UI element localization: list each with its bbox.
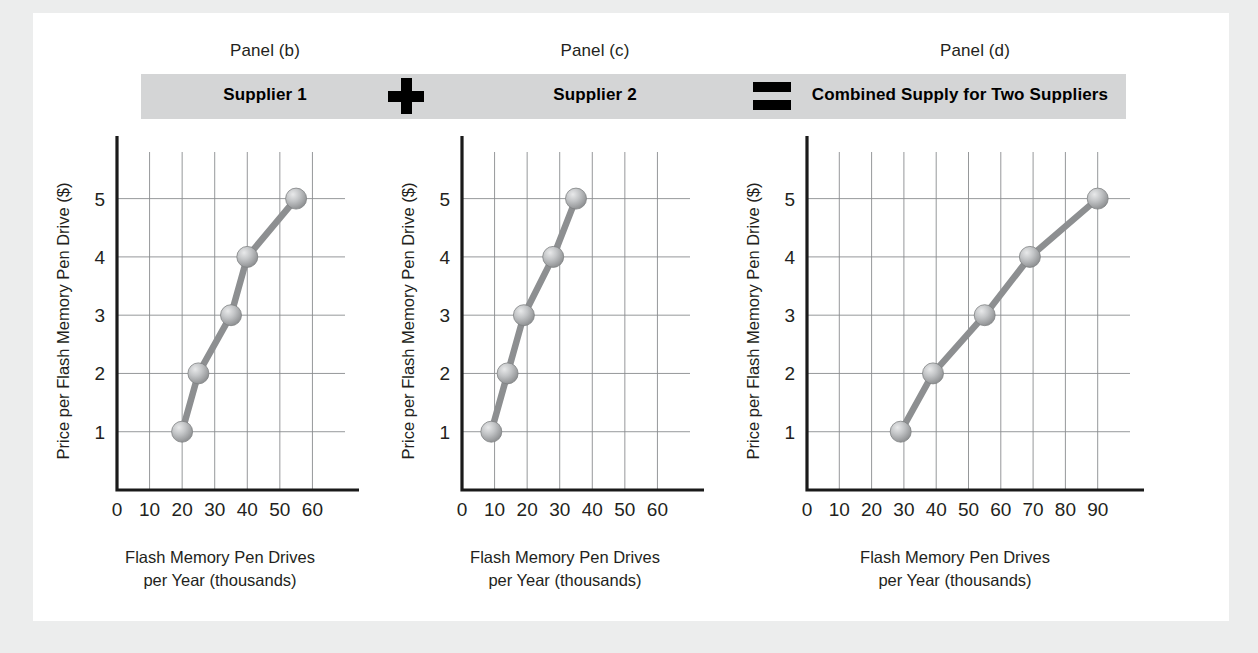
y-tick-label: 2 — [439, 363, 450, 384]
figure-root: Panel (b) Panel (c) Panel (d) Supplier 1… — [0, 0, 1258, 653]
chart-panel-c: 010203040506012345Price per Flash Memory… — [400, 130, 730, 540]
y-tick-label: 5 — [439, 189, 450, 210]
y-tick-label: 4 — [439, 247, 450, 268]
x-tick-label: 70 — [1023, 499, 1044, 520]
x-tick-label: 30 — [204, 499, 225, 520]
grid-lines — [807, 152, 1130, 490]
y-tick-label: 4 — [784, 247, 795, 268]
data-point-marker — [497, 363, 518, 384]
data-point-marker — [286, 188, 307, 209]
data-point-marker — [923, 363, 944, 384]
data-point-marker — [188, 363, 209, 384]
band-label-combined-supply: Combined Supply for Two Suppliers — [800, 85, 1120, 105]
y-axis-title: Price per Flash Memory Pen Drive ($) — [745, 183, 762, 460]
supply-curve-supplier-2: 010203040506012345Price per Flash Memory… — [400, 130, 730, 540]
y-tick-label: 1 — [94, 422, 105, 443]
y-tick-labels: 12345 — [784, 189, 795, 443]
chart-panel-d: 010203040506070809012345Price per Flash … — [745, 130, 1165, 540]
x-tick-labels: 0102030405060708090 — [802, 499, 1109, 520]
x-tick-label: 60 — [990, 499, 1011, 520]
data-point-marker — [890, 421, 911, 442]
x-tick-label: 50 — [958, 499, 979, 520]
data-point-marker — [237, 246, 258, 267]
x-axis-caption-d: Flash Memory Pen Drives per Year (thousa… — [745, 546, 1165, 592]
data-point-marker — [172, 421, 193, 442]
y-axis-title: Price per Flash Memory Pen Drive ($) — [55, 183, 72, 460]
data-point-marker — [221, 305, 242, 326]
panel-caption-d: Panel (d) — [840, 41, 1110, 61]
y-tick-label: 3 — [94, 305, 105, 326]
x-axis-caption-line2: per Year (thousands) — [55, 569, 385, 592]
x-tick-label: 10 — [139, 499, 160, 520]
x-tick-label: 60 — [302, 499, 323, 520]
x-axis-caption-line2: per Year (thousands) — [745, 569, 1165, 592]
y-tick-label: 2 — [94, 363, 105, 384]
x-axis-caption-line1: Flash Memory Pen Drives — [55, 546, 385, 569]
y-tick-label: 5 — [784, 189, 795, 210]
y-tick-label: 4 — [94, 247, 105, 268]
x-tick-labels: 0102030405060 — [457, 499, 668, 520]
y-tick-label: 3 — [784, 305, 795, 326]
supply-curve-combined: 010203040506070809012345Price per Flash … — [745, 130, 1165, 540]
y-tick-labels: 12345 — [94, 189, 105, 443]
y-tick-labels: 12345 — [439, 189, 450, 443]
x-tick-label: 0 — [112, 499, 123, 520]
x-tick-label: 50 — [614, 499, 635, 520]
y-tick-label: 2 — [784, 363, 795, 384]
x-tick-label: 20 — [861, 499, 882, 520]
y-tick-label: 5 — [94, 189, 105, 210]
x-tick-label: 10 — [484, 499, 505, 520]
band-label-supplier-1: Supplier 1 — [150, 85, 380, 105]
x-tick-label: 60 — [647, 499, 668, 520]
x-tick-label: 30 — [893, 499, 914, 520]
chart-panel-b: 010203040506012345Price per Flash Memory… — [55, 130, 385, 540]
x-tick-label: 10 — [829, 499, 850, 520]
x-tick-label: 40 — [582, 499, 603, 520]
x-tick-label: 40 — [237, 499, 258, 520]
data-point-marker — [513, 305, 534, 326]
x-tick-label: 50 — [269, 499, 290, 520]
x-axis-caption-c: Flash Memory Pen Drives per Year (thousa… — [400, 546, 730, 592]
x-tick-label: 20 — [517, 499, 538, 520]
equals-icon — [753, 82, 791, 110]
x-tick-label: 30 — [549, 499, 570, 520]
plus-icon — [388, 78, 424, 114]
y-tick-label: 1 — [784, 422, 795, 443]
x-axis-caption-line1: Flash Memory Pen Drives — [400, 546, 730, 569]
y-axis-title: Price per Flash Memory Pen Drive ($) — [400, 183, 417, 460]
data-point-marker — [481, 421, 502, 442]
y-tick-label: 3 — [439, 305, 450, 326]
x-tick-label: 0 — [457, 499, 468, 520]
data-point-marker — [566, 188, 587, 209]
band-label-supplier-2: Supplier 2 — [480, 85, 710, 105]
data-point-marker — [1087, 188, 1108, 209]
x-tick-label: 40 — [926, 499, 947, 520]
x-tick-label: 20 — [172, 499, 193, 520]
panel-caption-c: Panel (c) — [480, 41, 710, 61]
x-axis-caption-line1: Flash Memory Pen Drives — [745, 546, 1165, 569]
x-tick-label: 80 — [1055, 499, 1076, 520]
data-point-marker — [974, 305, 995, 326]
supply-curve-supplier-1: 010203040506012345Price per Flash Memory… — [55, 130, 385, 540]
y-tick-label: 1 — [439, 422, 450, 443]
panel-caption-b: Panel (b) — [150, 41, 380, 61]
data-point-marker — [1019, 246, 1040, 267]
x-axis-caption-b: Flash Memory Pen Drives per Year (thousa… — [55, 546, 385, 592]
data-point-marker — [543, 246, 564, 267]
x-tick-label: 0 — [802, 499, 813, 520]
x-axis-caption-line2: per Year (thousands) — [400, 569, 730, 592]
x-tick-label: 90 — [1087, 499, 1108, 520]
x-tick-labels: 0102030405060 — [112, 499, 323, 520]
